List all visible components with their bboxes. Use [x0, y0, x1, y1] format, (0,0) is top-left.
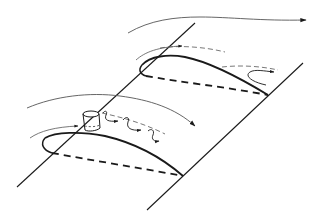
- upper-airfoil-upper-surface: [142, 56, 268, 95]
- upper-airfoil: [136, 46, 278, 95]
- lower-airfoil: [30, 111, 183, 176]
- separated-recirculation-arrow: [248, 70, 274, 85]
- wing-flow-diagram: [0, 0, 323, 221]
- trailing-edge-line: [147, 63, 303, 210]
- diagram-svg: [0, 0, 323, 221]
- upper-leading-flow-arrow: [136, 46, 182, 60]
- trailing-vortex-1: [103, 111, 118, 121]
- vortex-generator-icon: [83, 111, 100, 131]
- lower-airfoil-leading-edge: [43, 138, 52, 153]
- upper-separated-flow-dashed: [222, 66, 278, 70]
- lower-airfoil-lower-surface-dashed: [52, 153, 183, 176]
- upper-airfoil-lower-surface-dashed: [146, 76, 268, 95]
- lower-airfoil-upper-surface: [45, 133, 183, 176]
- trailing-vortex-2: [123, 118, 141, 131]
- top-freestream-arrow: [128, 17, 306, 33]
- trailing-vortex-3: [148, 130, 159, 142]
- vortex-trail-dashed: [102, 113, 165, 134]
